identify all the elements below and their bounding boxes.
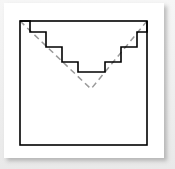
figure-root xyxy=(0,0,175,169)
outer-square xyxy=(20,21,147,145)
figure-card xyxy=(4,3,164,158)
staircase-curve xyxy=(20,21,147,72)
figure-diagram xyxy=(4,3,164,158)
